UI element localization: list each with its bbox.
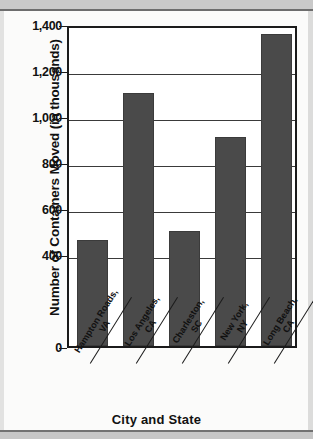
bar-chart-figure: Number of Containers Moved (in thousands… — [0, 0, 313, 439]
x-axis-title: City and State — [0, 412, 313, 427]
x-axis-tick-labels: Hampton Roads,VALos Angeles,CACharleston… — [0, 0, 313, 439]
